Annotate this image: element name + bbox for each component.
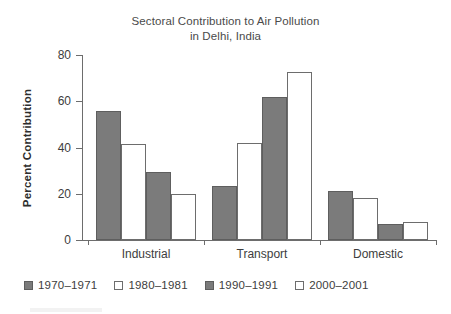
chart-title: Sectoral Contribution to Air Pollution i… xyxy=(0,14,451,44)
y-tick-label: 60 xyxy=(58,94,71,108)
chart-title-line-2: in Delhi, India xyxy=(0,29,451,44)
bar-domestic-1990-1991 xyxy=(378,224,403,240)
legend-swatch-icon xyxy=(24,281,33,290)
y-tick-label: 40 xyxy=(58,141,71,155)
bar-group-transport xyxy=(212,55,312,240)
bar-transport-1990-1991 xyxy=(262,97,287,240)
bar-transport-1970-1971 xyxy=(212,186,237,240)
y-tick-mark xyxy=(76,55,82,56)
bar-industrial-1980-1981 xyxy=(121,144,146,240)
x-axis-label-domestic: Domestic xyxy=(353,247,403,261)
bar-group-industrial xyxy=(96,55,196,240)
x-axis-label-industrial: Industrial xyxy=(122,247,171,261)
legend-swatch-icon xyxy=(114,281,123,290)
y-tick-mark xyxy=(76,101,82,102)
chart-title-line-1: Sectoral Contribution to Air Pollution xyxy=(0,14,451,29)
bar-domestic-1980-1981 xyxy=(353,198,378,240)
legend-swatch-icon xyxy=(205,281,214,290)
y-tick-mark xyxy=(76,148,82,149)
x-axis-line xyxy=(82,240,436,241)
bar-transport-1980-1981 xyxy=(237,143,262,240)
legend-item-1990-1991[interactable]: 1990–1991 xyxy=(205,279,278,291)
y-tick-mark xyxy=(76,240,82,241)
bar-industrial-1970-1971 xyxy=(96,111,121,241)
legend-label: 2000–2001 xyxy=(309,279,368,291)
bar-domestic-1970-1971 xyxy=(328,191,353,240)
y-tick-mark xyxy=(76,194,82,195)
x-axis-label-transport: Transport xyxy=(237,247,288,261)
legend-swatch-icon xyxy=(295,281,304,290)
legend-label: 1980–1981 xyxy=(128,279,187,291)
legend-label: 1990–1991 xyxy=(219,279,278,291)
x-tick-mark xyxy=(320,240,321,245)
bar-transport-2000-2001 xyxy=(287,72,312,240)
x-tick-mark xyxy=(436,240,437,245)
bar-industrial-2000-2001 xyxy=(171,194,196,240)
chart-legend: 1970–19711980–19811990–19912000–2001 xyxy=(24,279,369,291)
legend-item-1980-1981[interactable]: 1980–1981 xyxy=(114,279,187,291)
scan-artifact xyxy=(30,308,102,312)
legend-item-2000-2001[interactable]: 2000–2001 xyxy=(295,279,368,291)
bar-industrial-1990-1991 xyxy=(146,172,171,240)
y-axis-title-label: Percent Contribution xyxy=(21,88,33,206)
x-tick-mark xyxy=(88,240,89,245)
x-tick-mark xyxy=(204,240,205,245)
legend-item-1970-1971[interactable]: 1970–1971 xyxy=(24,279,97,291)
y-axis-line xyxy=(82,55,83,241)
bar-group-domestic xyxy=(328,55,428,240)
y-tick-label: 20 xyxy=(58,187,71,201)
bar-domestic-2000-2001 xyxy=(403,222,428,241)
y-tick-label: 0 xyxy=(64,233,71,247)
y-axis-title: Percent Contribution xyxy=(19,55,35,240)
legend-label: 1970–1971 xyxy=(38,279,97,291)
y-tick-label: 80 xyxy=(58,48,71,62)
plot-area: 020406080 IndustrialTransportDomestic xyxy=(88,55,436,240)
